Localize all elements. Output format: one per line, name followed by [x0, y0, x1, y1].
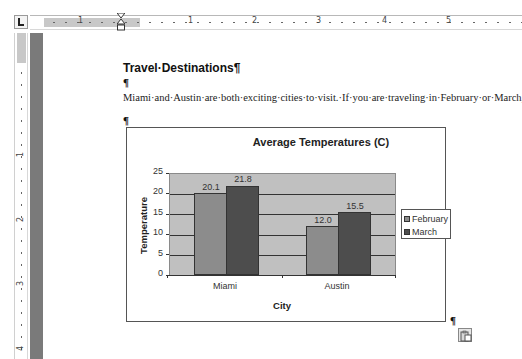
- tab-selector-button[interactable]: [14, 15, 28, 29]
- document-body-paragraph[interactable]: Miami·and·Austin·are·both·exciting·citie…: [123, 91, 522, 105]
- legend-swatch-icon: [404, 229, 410, 235]
- y-tick-label: 10: [149, 227, 163, 237]
- indent-marker[interactable]: [117, 13, 125, 31]
- ruler-number: 5: [446, 16, 451, 25]
- page-margin-gutter: [30, 33, 43, 359]
- plot-area: 20.1 21.8 12.0 15.5: [169, 173, 396, 275]
- y-tick-label: 25: [149, 166, 163, 176]
- embedded-chart[interactable]: Average Temperatures (C) 0 5 10 15 20 25…: [126, 127, 446, 322]
- ruler-number: 4: [16, 346, 25, 351]
- y-tick-label: 15: [149, 207, 163, 217]
- y-tick-label: 0: [149, 268, 163, 278]
- ruler-number: 4: [382, 16, 387, 25]
- ruler-number: 1: [78, 16, 83, 25]
- legend-item-march: March: [404, 225, 448, 238]
- chart-title: Average Temperatures (C): [127, 136, 445, 148]
- paste-options-icon: [460, 330, 472, 342]
- ruler-number: 2: [252, 16, 257, 25]
- data-label: 21.8: [226, 174, 260, 184]
- paste-options-button[interactable]: [458, 328, 472, 342]
- legend-swatch-icon: [404, 216, 410, 222]
- ruler-top-margin: [17, 33, 26, 63]
- horizontal-ruler[interactable]: 1 1 2 3 4 5: [30, 15, 522, 30]
- vertical-ruler[interactable]: 1 2 3 4: [14, 33, 28, 359]
- ruler-number: 1: [188, 16, 193, 25]
- document-heading[interactable]: Travel·Destinations¶: [123, 61, 240, 75]
- x-tick: [167, 275, 168, 278]
- x-tick: [282, 275, 283, 278]
- indent-hourglass-icon: [117, 13, 125, 31]
- bar-february-miami[interactable]: [194, 193, 227, 275]
- y-tick-label: 5: [149, 248, 163, 258]
- x-tick: [395, 275, 396, 278]
- paragraph-mark[interactable]: ¶: [123, 114, 129, 126]
- category-label: Austin: [307, 281, 367, 291]
- y-axis-title: Temperature: [138, 196, 149, 256]
- data-label: 12.0: [306, 215, 340, 225]
- legend-label: February: [412, 214, 448, 224]
- ruler-number: 2: [16, 217, 25, 222]
- chart-legend[interactable]: February March: [401, 209, 451, 239]
- category-label: Miami: [195, 281, 255, 291]
- y-tick-label: 20: [149, 186, 163, 196]
- bar-march-austin[interactable]: [338, 212, 371, 275]
- data-label: 15.5: [338, 201, 372, 211]
- legend-item-february: February: [404, 212, 448, 225]
- ruler-number: 3: [16, 281, 25, 286]
- legend-label: March: [412, 227, 437, 237]
- data-label: 20.1: [194, 182, 228, 192]
- ruler-number: 3: [316, 16, 321, 25]
- bar-february-austin[interactable]: [306, 226, 339, 275]
- ruler-number: 1: [16, 152, 25, 157]
- left-tab-icon: [18, 18, 24, 26]
- paragraph-mark[interactable]: ¶: [450, 314, 456, 326]
- x-axis-title: City: [252, 300, 312, 311]
- ruler-ticks: [17, 63, 26, 359]
- paragraph-mark[interactable]: ¶: [123, 76, 129, 88]
- bar-march-miami[interactable]: [226, 186, 259, 275]
